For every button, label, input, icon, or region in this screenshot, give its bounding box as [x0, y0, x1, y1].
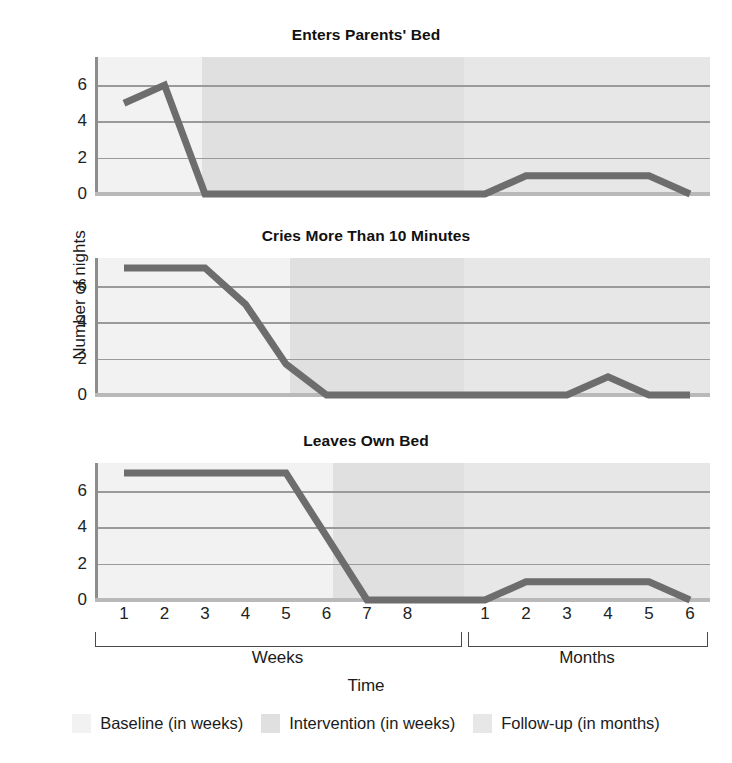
y-axis-label: Number of nights [70, 195, 90, 395]
data-series-line [95, 463, 710, 600]
data-series-line [95, 258, 710, 395]
x-axis-tick-label: 5 [638, 604, 660, 624]
x-axis-tick-label: 5 [275, 604, 297, 624]
y-axis-tick-label: 0 [59, 590, 87, 610]
bracket-label-weeks: Weeks [95, 648, 460, 668]
x-axis-tick-label: 2 [515, 604, 537, 624]
x-axis-tick-label: 6 [316, 604, 338, 624]
legend-item: Baseline (in weeks) [72, 714, 243, 733]
legend-label: Intervention (in weeks) [289, 714, 455, 733]
y-axis-tick-label: 6 [59, 481, 87, 501]
legend-item: Intervention (in weeks) [261, 714, 455, 733]
x-axis-tick-label: 8 [397, 604, 419, 624]
x-axis-tick-label: 3 [194, 604, 216, 624]
plot-area-3: 6420 [95, 463, 710, 600]
legend-item: Follow-up (in months) [473, 714, 660, 733]
x-axis-tick-label: 6 [679, 604, 701, 624]
y-axis-tick-label: 4 [59, 517, 87, 537]
x-axis-tick-label: 4 [235, 604, 257, 624]
data-series-line [95, 57, 710, 194]
x-axis-tick-label: 4 [597, 604, 619, 624]
legend-label: Baseline (in weeks) [100, 714, 243, 733]
panel-title-1: Enters Parents' Bed [0, 26, 732, 44]
x-axis-tick-label: 1 [474, 604, 496, 624]
panel-title-3: Leaves Own Bed [0, 432, 732, 450]
legend-swatch [261, 714, 280, 733]
bracket-label-months: Months [468, 648, 706, 668]
x-axis-tick-label: 3 [556, 604, 578, 624]
bracket-months [468, 632, 708, 647]
legend-swatch [72, 714, 91, 733]
y-axis-tick-label: 4 [59, 111, 87, 131]
panel-title-2: Cries More Than 10 Minutes [0, 227, 732, 245]
x-axis-tick-label: 1 [113, 604, 135, 624]
plot-area-1: 6420 [95, 57, 710, 194]
plot-area-2: 6420 [95, 258, 710, 395]
x-axis-tick-label: 2 [154, 604, 176, 624]
legend-label: Follow-up (in months) [501, 714, 660, 733]
x-axis-title: Time [0, 676, 732, 696]
y-axis-tick-label: 2 [59, 148, 87, 168]
figure-multi-panel-line-chart: Enters Parents' Bed 6420 Cries More Than… [0, 0, 732, 763]
legend: Baseline (in weeks)Intervention (in week… [0, 714, 732, 733]
y-axis-tick-label: 2 [59, 554, 87, 574]
y-axis-tick-label: 6 [59, 75, 87, 95]
bracket-weeks [95, 632, 462, 647]
legend-swatch [473, 714, 492, 733]
x-axis-tick-label: 7 [356, 604, 378, 624]
